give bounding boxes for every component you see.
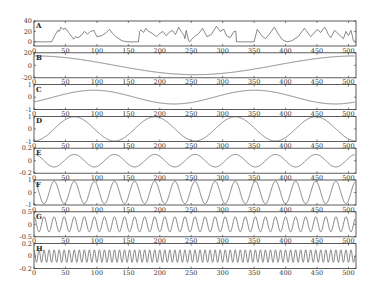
panel-g: 050100150200250300350400450500-0.500.5G xyxy=(19,208,356,245)
y-tick-label: 1 xyxy=(28,176,32,184)
y-tick-label: 0 xyxy=(28,252,32,260)
x-tick-label: 450 xyxy=(311,269,323,277)
y-tick-label: 40 xyxy=(24,17,32,25)
axes-frame xyxy=(34,116,356,141)
axes-frame xyxy=(34,21,356,46)
x-tick-label: 350 xyxy=(248,269,260,277)
panel-label: B xyxy=(36,53,42,62)
panel-label: H xyxy=(36,244,43,253)
series-line xyxy=(34,90,355,104)
series-line xyxy=(34,56,355,75)
x-tick-label: 400 xyxy=(279,269,291,277)
y-tick-label: 0 xyxy=(28,221,32,229)
y-tick-label: 0 xyxy=(28,38,32,46)
x-tick-label: 500 xyxy=(342,269,354,277)
series-line xyxy=(34,154,355,167)
axes-frame xyxy=(34,148,356,173)
y-tick-label: 1 xyxy=(28,113,32,121)
axes-frame xyxy=(34,85,356,110)
y-tick-label: 1 xyxy=(28,81,32,89)
y-tick-label: 20 xyxy=(24,28,32,36)
axes-frame xyxy=(34,212,356,237)
y-tick-label: 20 xyxy=(24,49,32,57)
panel-f: 050100150200250300350400450500-101F xyxy=(26,176,356,213)
panel-label: G xyxy=(36,212,42,221)
panel-c: 050100150200250300350400450500-101C xyxy=(26,81,356,118)
y-tick-label: 0.2 xyxy=(22,144,32,152)
series-line xyxy=(34,26,356,42)
x-tick-label: 100 xyxy=(91,269,103,277)
x-tick-label: 200 xyxy=(154,269,166,277)
y-tick-label: 0 xyxy=(28,189,32,197)
y-tick-label: 0 xyxy=(28,93,32,101)
series-line xyxy=(34,250,355,263)
panel-label: A xyxy=(35,21,42,30)
axes-frame xyxy=(34,244,356,269)
y-tick-label: 0.5 xyxy=(22,208,32,216)
axes-frame xyxy=(34,53,356,78)
panel-e: 050100150200250300350400450500-0.200.2E xyxy=(19,144,356,181)
y-tick-label: -0.2 xyxy=(19,265,32,273)
y-tick-label: 0 xyxy=(28,125,32,133)
x-tick-label: 0 xyxy=(32,269,36,277)
panel-label: F xyxy=(36,180,41,189)
y-tick-label: 0.2 xyxy=(22,240,32,248)
x-tick-label: 300 xyxy=(216,269,228,277)
panel-d: 050100150200250300350400450500-101D xyxy=(26,113,356,150)
y-tick-label: 0 xyxy=(28,157,32,165)
series-line xyxy=(34,117,355,141)
panel-a: 05010015020025030035040045050002040A xyxy=(24,17,356,54)
series-line xyxy=(34,181,355,204)
panel-h: 050100150200250300350400450500-0.200.2H xyxy=(19,240,356,277)
stacked-signal-chart: 05010015020025030035040045050002040A0501… xyxy=(0,0,377,307)
panel-b: 050100150200250300350400450500-20020B xyxy=(22,49,356,86)
panel-label: C xyxy=(36,85,42,94)
panel-label: E xyxy=(36,148,41,157)
x-tick-label: 150 xyxy=(122,269,134,277)
y-tick-label: 0 xyxy=(28,62,32,70)
x-tick-label: 250 xyxy=(185,269,197,277)
x-tick-label: 50 xyxy=(61,269,69,277)
series-line xyxy=(34,217,355,232)
panel-label: D xyxy=(36,116,42,125)
